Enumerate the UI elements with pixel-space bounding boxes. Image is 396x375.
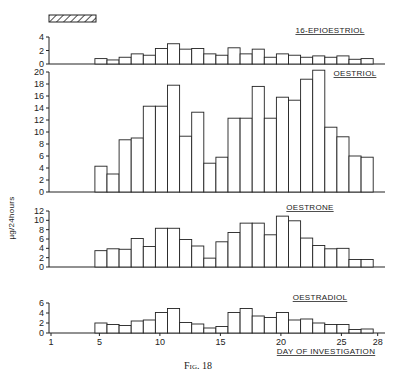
bar: [337, 56, 349, 64]
panel-title: OESTRADIOL: [293, 293, 348, 302]
bar: [131, 239, 143, 267]
bar: [361, 329, 373, 333]
bar: [168, 44, 180, 64]
x-tick-label: 15: [215, 337, 225, 347]
x-tick-label: 25: [336, 337, 346, 347]
bar: [301, 79, 313, 192]
bar: [228, 48, 240, 64]
bar: [143, 246, 155, 267]
bar: [119, 249, 131, 267]
y-tick-label: 8: [39, 139, 44, 149]
y-tick-label: 8: [39, 225, 44, 235]
bar: [192, 112, 204, 192]
panel-oestrone: 024681012OESTRONE: [34, 203, 385, 272]
bar: [143, 320, 155, 333]
y-tick-label: 12: [34, 206, 44, 216]
bar: [276, 54, 288, 64]
treatment-period-hatched-bar: [49, 15, 96, 22]
y-tick-label: 12: [34, 115, 44, 125]
y-tick-label: 6: [39, 234, 44, 244]
bar: [119, 140, 131, 192]
bar: [361, 157, 373, 192]
bar: [192, 246, 204, 267]
bar: [143, 55, 155, 64]
bar: [228, 118, 240, 192]
bar: [192, 48, 204, 64]
panel-oestradiol: 0246OESTRADIOL: [39, 293, 385, 338]
y-tick-label: 14: [34, 103, 44, 113]
bar: [107, 325, 119, 334]
bar: [289, 100, 301, 192]
x-tick-label: 1: [48, 337, 53, 347]
bar: [143, 106, 155, 192]
bar: [155, 48, 167, 64]
bar: [313, 323, 325, 333]
bar: [240, 54, 252, 64]
bar: [301, 319, 313, 333]
y-tick-label: 0: [39, 262, 44, 272]
y-axis-label: µg/24hours: [7, 196, 16, 239]
bar: [180, 239, 192, 267]
y-tick-label: 2: [39, 175, 44, 185]
bar: [204, 163, 216, 192]
bar: [361, 260, 373, 267]
bar: [119, 57, 131, 64]
bar: [95, 166, 107, 192]
y-tick-label: 10: [34, 127, 44, 137]
y-tick-label: 6: [39, 298, 44, 308]
bar: [180, 323, 192, 334]
bar: [325, 249, 337, 267]
bar: [349, 59, 361, 64]
bar: [192, 324, 204, 333]
bar: [95, 251, 107, 267]
panel-oestriol: 02468101214161820OESTRIOL: [34, 67, 385, 197]
bar: [313, 246, 325, 267]
bar: [301, 238, 313, 267]
bar: [216, 327, 228, 334]
bar: [349, 156, 361, 192]
bar: [325, 127, 337, 192]
bar: [313, 56, 325, 64]
y-tick-label: 0: [39, 328, 44, 338]
panel-title: 16-EPIOESTRIOL: [295, 26, 364, 35]
bar: [107, 174, 119, 192]
bar: [155, 313, 167, 334]
bar: [264, 235, 276, 267]
bar: [361, 59, 373, 64]
bar: [240, 309, 252, 334]
bar: [180, 136, 192, 192]
bar: [180, 49, 192, 64]
y-tick-label: 0: [39, 187, 44, 197]
bar: [131, 321, 143, 333]
histogram-figure: 02416-EPIOESTRIOL02468101214161820OESTRI…: [0, 0, 396, 375]
bar: [289, 55, 301, 64]
bar: [252, 49, 264, 64]
bar: [95, 323, 107, 333]
y-tick-label: 20: [34, 67, 44, 77]
bar: [313, 70, 325, 192]
bar: [204, 54, 216, 64]
bar: [216, 55, 228, 64]
y-tick-label: 18: [34, 79, 44, 89]
bar: [301, 57, 313, 64]
x-tick-label: 28: [373, 337, 383, 347]
bar: [325, 57, 337, 64]
bar: [228, 232, 240, 267]
bar: [240, 118, 252, 192]
bar: [204, 328, 216, 333]
bar: [252, 86, 264, 192]
bar: [264, 318, 276, 334]
bar: [276, 313, 288, 334]
bar: [168, 228, 180, 267]
y-tick-label: 4: [39, 163, 44, 173]
bar: [349, 330, 361, 334]
bar: [276, 216, 288, 267]
y-tick-label: 2: [39, 318, 44, 328]
x-tick-label: 20: [276, 337, 286, 347]
bar: [289, 221, 301, 267]
y-tick-label: 2: [39, 253, 44, 263]
bar: [264, 57, 276, 64]
bar: [349, 260, 361, 267]
panel-title: OESTRIOL: [334, 69, 377, 78]
bar: [337, 325, 349, 334]
